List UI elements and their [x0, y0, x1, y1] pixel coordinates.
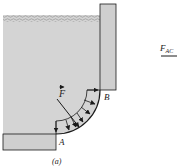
figure-caption: (a): [52, 157, 62, 166]
gate-diagram: F B A (a) FAC: [0, 0, 177, 168]
side-force-label: FAC: [159, 43, 174, 54]
force-label: F: [58, 88, 66, 99]
water-region: [3, 15, 100, 134]
point-a-label: A: [58, 137, 65, 147]
right-wall: [100, 4, 116, 90]
floor-slab: [3, 134, 56, 150]
point-b-label: B: [104, 92, 110, 102]
water-surface: [3, 15, 100, 22]
side-force-subscript: AC: [165, 48, 175, 54]
